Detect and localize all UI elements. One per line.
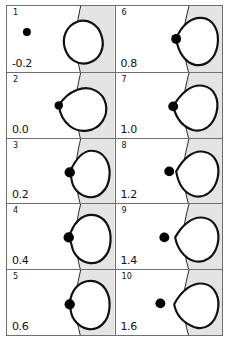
panel-5: 50.6	[7, 269, 115, 335]
panel-index-label: 3	[13, 141, 18, 150]
panel-8: 81.2	[115, 138, 223, 204]
closed-contour-blob	[59, 88, 107, 131]
closed-contour-blob	[70, 281, 110, 329]
panel-value-label: 0.8	[121, 58, 137, 70]
panel-value-label: 1.2	[121, 189, 137, 201]
panel-index-label: 7	[122, 75, 127, 84]
panel-index-label: 8	[122, 141, 127, 150]
black-dot-marker	[64, 233, 74, 243]
panel-grid: 1-0.260.820.071.030.281.240.491.450.6101…	[7, 6, 222, 335]
panel-index-label: 6	[122, 8, 127, 17]
black-dot-marker	[65, 299, 75, 309]
panel-value-label: 0.4	[12, 255, 28, 267]
panel-index-label: 4	[13, 206, 18, 215]
black-dot-marker	[155, 299, 165, 309]
panel-value-label: -0.2	[12, 58, 32, 70]
panel-6: 60.8	[115, 6, 223, 72]
panel-value-label: 1.4	[121, 255, 137, 267]
panel-4: 40.4	[7, 203, 115, 269]
panel-value-label: 0.6	[12, 321, 28, 333]
panel-2: 20.0	[7, 72, 115, 138]
closed-contour-blob	[64, 21, 103, 64]
closed-contour-blob	[176, 18, 218, 65]
closed-contour-blob	[69, 215, 111, 263]
black-dot-marker	[23, 28, 31, 36]
panel-index-label: 1	[13, 8, 18, 17]
figure-frame: 1-0.260.820.071.030.281.240.491.450.6101…	[6, 5, 223, 336]
black-dot-marker	[168, 101, 178, 111]
black-dot-marker	[159, 233, 169, 243]
panel-index-label: 5	[13, 272, 18, 281]
closed-contour-blob	[173, 85, 217, 130]
panel-index-label: 2	[13, 75, 18, 84]
closed-contour-blob	[175, 218, 218, 262]
panel-7: 71.0	[115, 72, 223, 138]
closed-contour-blob	[176, 151, 218, 196]
panel-index-label: 9	[122, 206, 127, 215]
black-dot-marker	[164, 166, 174, 176]
panel-value-label: 1.0	[121, 124, 137, 136]
panel-value-label: 0.0	[12, 124, 28, 136]
black-dot-marker	[54, 101, 63, 109]
panel-value-label: 1.6	[121, 321, 137, 333]
black-dot-marker	[171, 34, 181, 44]
closed-contour-blob	[70, 150, 110, 196]
closed-contour-blob	[174, 284, 218, 329]
panel-1: 1-0.2	[7, 6, 115, 72]
figure-panel-grid: 1-0.260.820.071.030.281.240.491.450.6101…	[0, 0, 229, 341]
panel-9: 91.4	[115, 203, 223, 269]
panel-index-label: 10	[122, 272, 133, 281]
black-dot-marker	[65, 167, 75, 177]
panel-value-label: 0.2	[12, 189, 28, 201]
panel-3: 30.2	[7, 138, 115, 204]
panel-10: 101.6	[115, 269, 223, 335]
